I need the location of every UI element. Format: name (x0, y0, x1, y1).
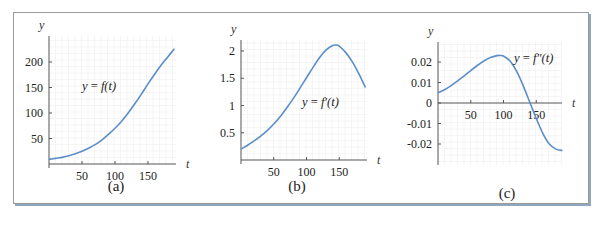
data-curve (49, 49, 174, 160)
y-axis-label: y (38, 18, 45, 32)
chart-panel-a: 5010015050100150200yty = f(t)(a) (25, 18, 190, 195)
x-tick-label: 50 (76, 169, 88, 183)
y-tick-label: 0.01 (411, 76, 432, 90)
y-tick-label: 0.5 (220, 126, 235, 140)
curve-label: y = f″(t) (512, 51, 553, 65)
x-axis-label: t (186, 157, 190, 171)
y-tick-label: 0.02 (411, 55, 432, 69)
chart-panel-c: 50100150-0.02-0.0100.010.02yty = f″(t)(c… (407, 24, 576, 202)
figure-panels: 5010015050100150200yty = f(t)(a) 5010015… (0, 0, 606, 233)
y-tick-label: 50 (31, 132, 43, 146)
y-tick-label: -0.02 (407, 137, 432, 151)
curve-label: y = f(t) (80, 79, 116, 93)
y-tick-label: 1.5 (220, 71, 235, 85)
x-tick-label: 50 (465, 108, 477, 122)
x-tick-label: 50 (268, 165, 280, 179)
curve-label: y = f′(t) (300, 95, 339, 109)
panel-caption: (b) (288, 178, 306, 195)
y-tick-label: 2 (229, 44, 235, 58)
y-tick-label: 100 (25, 106, 43, 120)
y-tick-label: 0 (426, 96, 432, 110)
x-axis-label: t (377, 153, 381, 167)
chart-panel-b: 501001500.511.52yty = f′(t)(b) (220, 22, 381, 195)
y-axis-label: y (230, 22, 237, 36)
grid (49, 36, 176, 164)
y-tick-label: -0.01 (407, 117, 432, 131)
x-tick-label: 100 (298, 165, 316, 179)
x-tick-label: 100 (495, 108, 513, 122)
panel-caption: (c) (499, 185, 516, 202)
x-tick-label: 150 (139, 169, 157, 183)
x-axis-label: t (572, 96, 576, 110)
panel-caption: (a) (108, 178, 125, 195)
y-axis-label: y (427, 24, 434, 38)
y-tick-label: 200 (25, 55, 43, 69)
y-tick-label: 150 (25, 81, 43, 95)
y-tick-label: 1 (229, 99, 235, 113)
x-tick-label: 150 (330, 165, 348, 179)
